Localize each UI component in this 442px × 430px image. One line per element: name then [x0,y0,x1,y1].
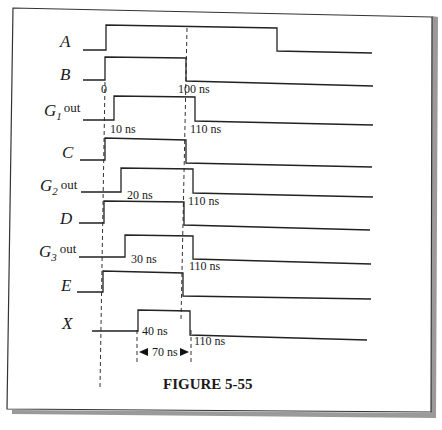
signal-label-e: E [60,276,72,295]
g2-fall-label: 110 ns [188,194,220,208]
g3-fall-label: 110 ns [189,259,221,273]
signal-label-b: B [60,65,71,84]
g3-rise-label: 30 ns [131,252,157,266]
signal-label-d: D [59,209,73,228]
signal-label-c: C [62,143,74,162]
signal-label-x: X [61,314,73,333]
timing-diagram-figure: A B 0 100 ns G1out 10 ns 110 ns C G2out … [0,0,442,430]
pulse-width-label: 70 ns [152,345,178,359]
g1-rise-label: 10 ns [110,122,136,136]
x-fall-label: 110 ns [194,334,226,348]
time-marker-0: 0 [101,82,107,96]
time-marker-100ns: 100 ns [178,82,210,96]
x-rise-label: 40 ns [142,324,168,338]
g1-fall-label: 110 ns [190,122,222,136]
figure-caption: FIGURE 5-55 [163,376,253,392]
g2-rise-label: 20 ns [127,188,153,202]
signal-label-a: A [59,32,71,51]
